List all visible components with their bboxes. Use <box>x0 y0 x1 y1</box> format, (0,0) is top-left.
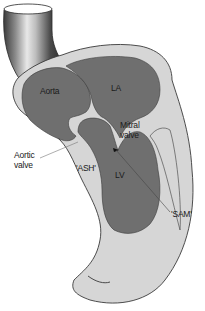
label-ash: 'ASH' <box>76 163 96 173</box>
label-sam: 'SAM' <box>171 209 192 219</box>
heart-diagram: Aorta LA Mitral valve Aortic valve 'ASH'… <box>0 0 205 311</box>
label-la: LA <box>111 83 121 93</box>
label-mitral-valve: Mitral valve <box>120 120 140 140</box>
label-aorta: Aorta <box>40 86 59 96</box>
label-aortic-valve: Aortic valve <box>14 150 35 170</box>
label-lv: LV <box>115 170 124 180</box>
